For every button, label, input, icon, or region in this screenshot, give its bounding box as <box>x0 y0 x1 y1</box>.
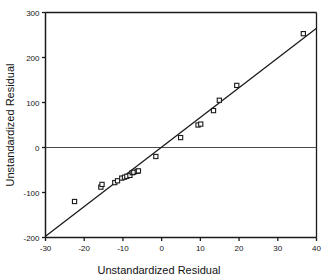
fit-line <box>46 28 317 236</box>
chart-canvas: -200-1000100200300-30-20-10010203040Unst… <box>0 0 333 280</box>
y-tick-label: 100 <box>26 99 40 108</box>
data-point-marker <box>136 169 140 173</box>
data-point-marker <box>154 154 158 158</box>
y-tick-label: 0 <box>35 144 40 153</box>
x-tick-label: 0 <box>159 244 164 253</box>
y-tick-label: -100 <box>23 189 40 198</box>
data-point-marker <box>217 98 221 102</box>
data-point-marker <box>301 32 305 36</box>
x-tick-label: -20 <box>78 244 90 253</box>
x-axis-ticks: -30-20-10010203040 <box>40 238 322 253</box>
y-axis-title: Unstandardized Residual <box>4 64 16 187</box>
x-tick-label: 20 <box>235 244 244 253</box>
y-tick-label: 200 <box>26 54 40 63</box>
y-axis-ticks: -200-1000100200300 <box>23 9 45 243</box>
x-tick-label: 30 <box>273 244 282 253</box>
scatter-plot-figure: -200-1000100200300-30-20-10010203040Unst… <box>0 0 333 280</box>
x-tick-label: -30 <box>40 244 52 253</box>
x-tick-label: 10 <box>196 244 205 253</box>
data-point-marker <box>115 179 119 183</box>
y-tick-label: 300 <box>26 9 40 18</box>
data-point-marker <box>235 83 239 87</box>
x-axis-title: Unstandardized Residual <box>98 264 221 276</box>
x-tick-label: 40 <box>312 244 321 253</box>
y-tick-label: -200 <box>23 234 40 243</box>
x-tick-label: -10 <box>117 244 129 253</box>
data-point-marker <box>100 182 104 186</box>
data-point-marker <box>179 136 183 140</box>
data-point-marker <box>211 109 215 113</box>
data-point-marker <box>72 199 76 203</box>
data-point-marker <box>199 122 203 126</box>
data-points-group <box>72 32 305 204</box>
